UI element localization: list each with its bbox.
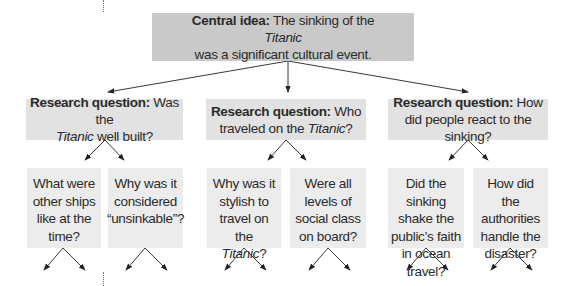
arrow-central-to-rq3 [288,61,468,92]
research-question-3: Research question: How did people react … [388,99,548,140]
sub-question-3a: Did the sinking shake the public’s faith… [388,168,464,248]
research-question-1: Research question: Was the Titanic well … [26,99,183,140]
central-idea-box: Central idea: The sinking of the Titanic… [152,13,414,61]
central-idea-label: Central idea: [192,13,270,28]
research-question-label: Research question: [211,104,331,119]
central-idea-text: Central idea: The sinking of the Titanic… [172,12,394,63]
sub-question-1a: What were other ships like at the time? [27,168,101,248]
research-question-2: Research question: Who traveled on the W… [206,99,366,140]
arrow-central-to-rq1 [108,61,288,92]
research-question-label: Research question: [393,95,513,110]
research-question-label: Research question: [30,95,150,110]
sub-question-1b: Why was it considered “unsinkable”? [108,168,183,248]
sub-question-3b: How did the authorities handle the disas… [473,168,548,248]
sub-question-2b: Were all levels of social class on board… [290,168,366,248]
sub-question-2a: Why was it stylish to travel on the Tita… [207,168,281,248]
